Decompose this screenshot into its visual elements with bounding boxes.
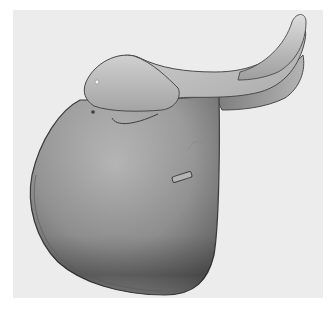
pommel-rivet [95,80,99,84]
dee-ring [91,110,95,114]
saddle-flap [30,95,219,295]
saddle-illustration [0,0,334,310]
